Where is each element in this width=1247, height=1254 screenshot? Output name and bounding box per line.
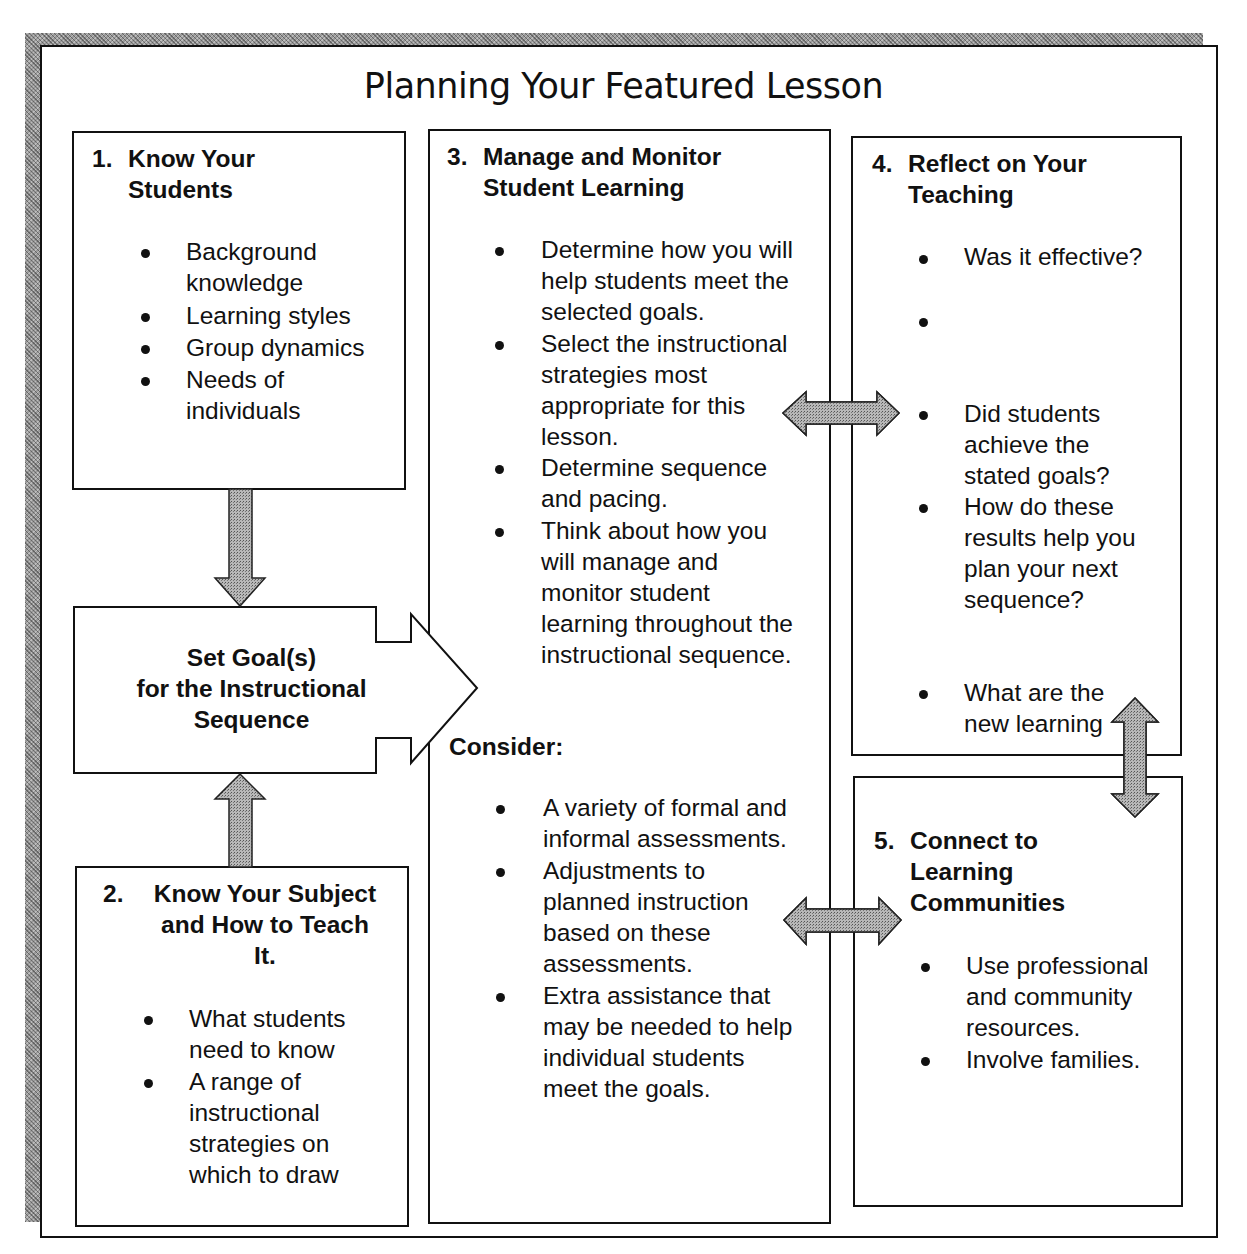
box2-heading: Know Your Subject and How to Teach It. [130,878,400,971]
bullet-icon [919,690,928,699]
bullet-icon [919,255,928,264]
box4-item: Did students achieve the stated goals? [964,398,1110,491]
box1-item: Group dynamics [186,332,364,363]
bullet-icon [921,1057,930,1066]
bullet-icon [144,1079,153,1088]
bullet-icon [495,528,504,537]
bullet-icon [144,1016,153,1025]
box5-item: Use professional and community resources… [966,950,1148,1043]
box2-number: 2. [103,878,123,909]
bullet-icon [496,805,505,814]
bullet-icon [495,247,504,256]
box3-item: Determine sequence and pacing. [541,452,767,514]
bullet-icon [919,318,928,327]
box5-heading: Connect to Learning Communities [910,825,1065,918]
bullet-icon [495,465,504,474]
page-title: Planning Your Featured Lesson [0,66,1247,106]
consider-item: A variety of formal and informal assessm… [543,792,787,854]
box4-item: What are the new learning [964,677,1104,739]
consider-label: Consider: [449,731,563,762]
bullet-icon [141,313,150,322]
bullet-icon [496,868,505,877]
bullet-icon [496,993,505,1002]
box4-number: 4. [872,148,892,179]
box1-number: 1. [92,143,112,174]
box1-heading: Know Your Students [128,143,255,205]
bullet-icon [919,411,928,420]
box5-item: Involve families. [966,1044,1140,1075]
box3-number: 3. [447,141,467,172]
box4-item: Was it effective? [964,241,1142,272]
box3-item: Think about how you will manage and moni… [541,515,793,670]
consider-item: Adjustments to planned instruction based… [543,855,749,979]
bullet-icon [141,377,150,386]
bullet-icon [921,963,930,972]
box3-item: Determine how you will help students mee… [541,234,793,327]
bullet-icon [495,341,504,350]
frame-shadow-left [25,33,40,1222]
box2-item: A range of instructional strategies on w… [189,1066,339,1190]
bullet-icon [141,249,150,258]
box2-item: What students need to know [189,1003,346,1065]
box5-number: 5. [874,825,894,856]
box3-heading: Manage and Monitor Student Learning [483,141,721,203]
box4-heading: Reflect on Your Teaching [908,148,1087,210]
goal-text: Set Goal(s) for the Instructional Sequen… [74,642,429,735]
bullet-icon [919,504,928,513]
bullet-icon [141,345,150,354]
box1-item: Background knowledge [186,236,317,298]
box1-item: Learning styles [186,300,351,331]
box1-item: Needs of individuals [186,364,300,426]
box4-item: How do these results help you plan your … [964,491,1136,615]
consider-item: Extra assistance that may be needed to h… [543,980,792,1104]
box3-item: Select the instructional strategies most… [541,328,788,452]
